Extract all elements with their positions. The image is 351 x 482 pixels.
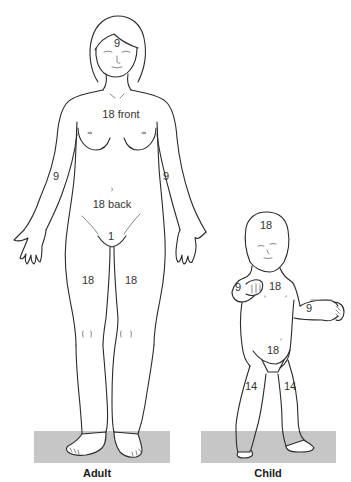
adult-leg-inner-right <box>112 247 118 432</box>
child-caption: Child <box>254 467 282 479</box>
adult-arm-right-outer <box>131 90 206 232</box>
adult-torso-right <box>154 122 165 345</box>
child-torso-left <box>241 302 251 366</box>
adult-groin-left <box>82 216 98 234</box>
child-nose <box>267 250 269 254</box>
child-trunk-back-label: 18 <box>267 344 279 356</box>
adult-collarbones <box>110 94 124 98</box>
child-torso-right <box>280 300 294 368</box>
adult-figure: 9 18 front 18 back 9 9 1 18 18 Adult <box>14 16 206 479</box>
adult-eye-left <box>104 51 112 52</box>
child-neck-left <box>244 266 252 278</box>
child-trunk-front-label: 18 <box>269 280 281 292</box>
adult-knee-right <box>121 331 132 337</box>
adult-trunk-front-label: 18 front <box>102 108 139 120</box>
child-fingers-left <box>252 284 260 293</box>
child-eyes <box>258 244 276 247</box>
child-figure: 18 18 9 9 18 14 14 Child <box>201 212 344 479</box>
adult-arm-right-label: 9 <box>53 170 59 182</box>
adult-leg-outer-left <box>76 345 82 434</box>
adult-neck-left <box>103 74 106 90</box>
child-arm-right-label: 9 <box>235 281 241 293</box>
adult-head-label: 9 <box>114 37 120 49</box>
adult-eye-right <box>122 51 130 52</box>
adult-groin-right <box>124 214 140 234</box>
adult-hand-right <box>176 230 206 264</box>
adult-perineum-label: 1 <box>108 230 114 242</box>
adult-caption: Adult <box>83 467 111 479</box>
child-nipples <box>265 296 286 297</box>
adult-navel <box>112 188 113 191</box>
child-leg-right-label: 14 <box>245 380 257 392</box>
adult-neck-right <box>128 74 131 90</box>
child-arm-left-label: 9 <box>306 302 312 314</box>
adult-hand-left <box>14 230 46 264</box>
adult-face <box>96 48 137 77</box>
child-leg-left-label: 14 <box>284 380 296 392</box>
adult-knee-left <box>83 331 92 337</box>
child-ground-shadow <box>201 431 336 463</box>
child-fingers-right <box>336 306 340 317</box>
adult-nose <box>117 56 120 63</box>
adult-nipple-left <box>88 132 92 134</box>
adult-leg-left-label: 18 <box>125 274 137 286</box>
adult-leg-right-label: 18 <box>82 274 94 286</box>
child-shoulder-right <box>280 268 300 306</box>
child-head-label: 18 <box>260 219 272 231</box>
adult-nipple-right <box>142 132 146 134</box>
child-foot-left <box>237 451 252 459</box>
adult-breast-left <box>78 128 110 150</box>
adult-leg-outer-right <box>138 345 154 434</box>
adult-arm-left-label: 9 <box>163 170 169 182</box>
adult-torso-left <box>65 122 77 345</box>
adult-breast-right <box>124 128 156 150</box>
adult-mouth <box>112 67 122 68</box>
adult-trunk-back-label: 18 back <box>93 198 132 210</box>
adult-leg-inner-left <box>103 247 110 432</box>
child-arm-right-lower <box>294 316 338 321</box>
adult-arm-left-outer <box>24 90 103 230</box>
rule-of-nines-diagram: 9 18 front 18 back 9 9 1 18 18 Adult <box>0 0 351 482</box>
child-leg-right-outer <box>288 360 304 440</box>
child-mouth <box>264 258 272 259</box>
adult-arm-left-inner <box>46 134 77 230</box>
